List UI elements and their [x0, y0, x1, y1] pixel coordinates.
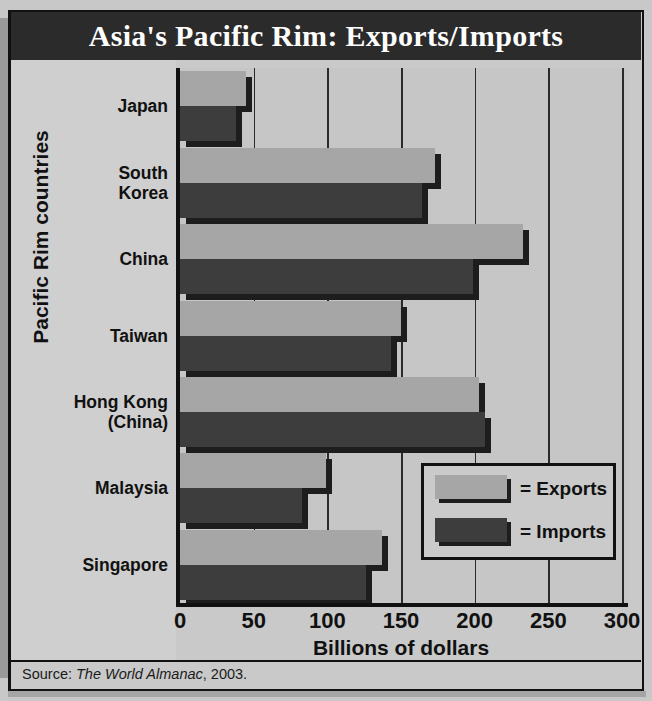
- title-banner: Asia's Pacific Rim: Exports/Imports: [11, 12, 641, 60]
- x-tick-label: 0: [174, 608, 186, 634]
- legend-swatch-imports: [435, 518, 507, 542]
- y-axis-title: Pacific Rim countries: [24, 47, 58, 427]
- source-suffix: , 2003.: [203, 666, 247, 682]
- bar-imports-singapore: [180, 565, 366, 600]
- bar-imports-japan: [180, 106, 236, 141]
- bar-imports-malaysia: [180, 488, 302, 523]
- bar-exports-china: [180, 224, 523, 259]
- x-tick-label: 250: [530, 608, 567, 634]
- legend-swatch-exports: [435, 475, 507, 499]
- x-axis-ticks: 050100150200250300: [176, 608, 636, 638]
- y-axis-title-text: Pacific Rim countries: [29, 130, 53, 344]
- plate-bottom-shadow: [8, 691, 646, 697]
- category-label-china: China: [55, 249, 168, 269]
- bar-exports-hong-kong-china: [180, 377, 479, 412]
- legend-swatch-imports-wrap: [435, 518, 511, 546]
- legend-label-exports: = Exports: [520, 478, 607, 500]
- category-label-hong-kong-china: Hong Kong(China): [55, 392, 168, 432]
- chart-figure: Asia's Pacific Rim: Exports/Imports Paci…: [0, 0, 652, 701]
- chart-title: Asia's Pacific Rim: Exports/Imports: [89, 19, 564, 53]
- source-publication: The World Almanac: [76, 666, 203, 682]
- bar-exports-singapore: [180, 530, 382, 565]
- category-labels: JapanSouthKoreaChinaTaiwanHong Kong(Chin…: [55, 68, 168, 608]
- legend-label-imports: = Imports: [520, 521, 606, 543]
- gridline: [622, 68, 624, 603]
- legend-row-exports: = Exports: [435, 475, 607, 503]
- source-prefix: Source:: [22, 666, 76, 682]
- bar-exports-south-korea: [180, 148, 435, 183]
- x-tick-label: 50: [241, 608, 265, 634]
- bar-imports-south-korea: [180, 183, 422, 218]
- bar-exports-taiwan: [180, 301, 401, 336]
- legend-swatch-exports-wrap: [435, 475, 511, 503]
- chart-body: Pacific Rim countries JapanSouthKoreaChi…: [11, 60, 641, 660]
- category-label-singapore: Singapore: [55, 555, 168, 575]
- bar-imports-hong-kong-china: [180, 412, 485, 447]
- bar-exports-japan: [180, 71, 246, 106]
- x-axis-title: Billions of dollars: [176, 636, 626, 660]
- category-label-gutter: Pacific Rim countries JapanSouthKoreaChi…: [11, 60, 176, 660]
- chart-legend: = Exports = Imports: [421, 463, 616, 560]
- category-label-malaysia: Malaysia: [55, 478, 168, 498]
- source-note: Source: The World Almanac, 2003.: [22, 666, 247, 682]
- x-tick-label: 300: [604, 608, 641, 634]
- x-tick-label: 150: [383, 608, 420, 634]
- x-tick-label: 100: [309, 608, 346, 634]
- legend-row-imports: = Imports: [435, 518, 606, 546]
- category-label-japan: Japan: [55, 96, 168, 116]
- source-separator: [11, 660, 641, 662]
- bar-imports-china: [180, 259, 473, 294]
- bar-exports-malaysia: [180, 453, 326, 488]
- category-label-south-korea: SouthKorea: [55, 163, 168, 203]
- bar-imports-taiwan: [180, 336, 391, 371]
- category-label-taiwan: Taiwan: [55, 326, 168, 346]
- x-tick-label: 200: [456, 608, 493, 634]
- plot-area: = Exports = Imports: [176, 68, 628, 607]
